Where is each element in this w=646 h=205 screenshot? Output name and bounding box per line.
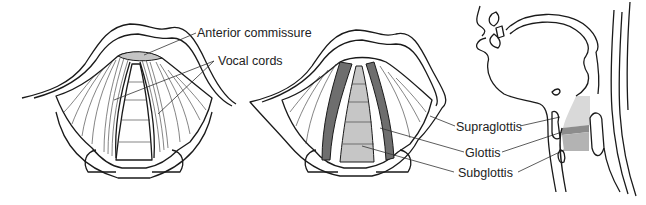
- arytenoid-left: [85, 150, 116, 172]
- region-subglottis: [562, 132, 589, 151]
- label-supraglottis: Supraglottis: [456, 120, 522, 134]
- lower-lip: [490, 34, 500, 48]
- palate-arch: [506, 14, 598, 52]
- hyoid: [552, 89, 560, 95]
- vocal-cord-right: [140, 60, 206, 158]
- arytenoid-left-shaded: [305, 150, 338, 172]
- anterior-commissure-shape: [118, 52, 162, 61]
- teeth: [496, 26, 504, 38]
- label-vocal-cords: Vocal cords: [218, 54, 283, 68]
- label-anterior-commissure: Anterior commissure: [197, 26, 312, 40]
- panel-larynx-unshaded: [22, 24, 236, 178]
- larynx-diagram: Anterior commissure Vocal cords S: [0, 0, 646, 205]
- arytenoid-right: [152, 150, 183, 172]
- trachea-rings: [116, 64, 152, 160]
- region-supraglottis: [563, 96, 590, 128]
- label-glottis: Glottis: [465, 146, 500, 160]
- tongue-back: [510, 22, 589, 96]
- epiglottis-inner-rim: [34, 34, 232, 106]
- esophagus-front: [596, 52, 599, 94]
- label-subglottis: Subglottis: [458, 166, 513, 180]
- panel-larynx-shaded: [250, 30, 446, 176]
- neck-back: [627, 2, 630, 110]
- face-profile: [477, 6, 556, 192]
- upper-lip: [489, 12, 499, 26]
- arytenoid-cartilage: [590, 113, 604, 156]
- leader-vocal-cords-2: [158, 61, 214, 114]
